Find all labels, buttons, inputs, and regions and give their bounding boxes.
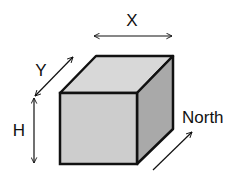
h-label: H (13, 121, 25, 140)
x-dimension: X (94, 11, 172, 36)
cube-diagram: X Y H North (0, 0, 241, 181)
north-label: North (182, 108, 224, 127)
cube-front-face (60, 93, 137, 164)
x-label: X (126, 11, 137, 30)
y-label: Y (35, 61, 46, 80)
cube (60, 56, 173, 164)
h-dimension: H (13, 98, 34, 163)
